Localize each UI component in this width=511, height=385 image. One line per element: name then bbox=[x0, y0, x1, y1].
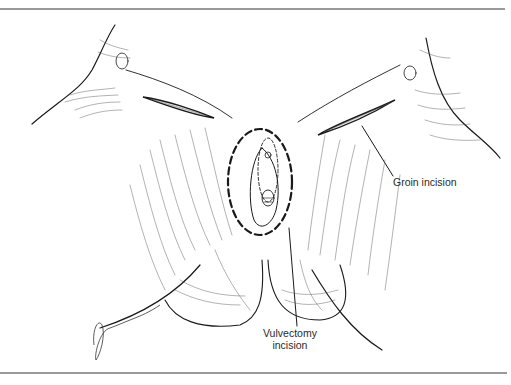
bottom-rule bbox=[0, 372, 507, 374]
anatomical-illustration bbox=[0, 0, 511, 385]
left-thigh-contour bbox=[32, 25, 115, 124]
vulvectomy-incision-label: Vulvectomy incision bbox=[263, 327, 317, 351]
vulvectomy-outline bbox=[228, 129, 292, 235]
artist-signature bbox=[94, 305, 160, 360]
vulvectomy-label-line1: Vulvectomy bbox=[263, 327, 317, 339]
right-buttock-contour bbox=[312, 270, 382, 350]
right-groin-incision bbox=[318, 100, 395, 135]
groin-incision-label: Groin incision bbox=[393, 176, 457, 188]
groin-pointer bbox=[362, 126, 393, 176]
left-buttock-contour bbox=[100, 265, 200, 328]
vulvectomy-pointer bbox=[289, 228, 297, 326]
skin-hatching bbox=[65, 40, 480, 310]
vulvectomy-label-line2: incision bbox=[263, 339, 317, 351]
